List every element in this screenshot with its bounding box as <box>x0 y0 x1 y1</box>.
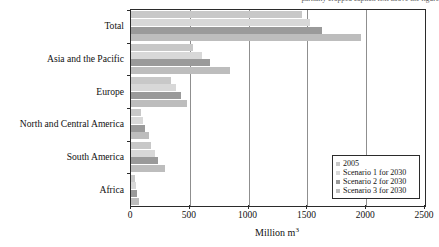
legend: 2005Scenario 1 for 2030Scenario 2 for 20… <box>332 155 420 199</box>
legend-label: Scenario 3 for 2030 <box>343 186 406 195</box>
x-axis-tick-label: 500 <box>182 210 196 221</box>
figure-container: partially cropped caption text above the… <box>0 0 439 247</box>
legend-item[interactable]: 2005 <box>336 159 415 168</box>
bar <box>131 19 310 26</box>
category-label: Africa <box>100 183 125 194</box>
bar <box>131 175 135 182</box>
bar <box>131 190 137 197</box>
x-axis-tick <box>424 205 425 209</box>
category-label: Europe <box>96 85 124 96</box>
x-axis-tick <box>189 205 190 209</box>
x-axis-tick <box>248 205 249 209</box>
x-axis-title: Million m3 <box>130 226 424 238</box>
bar <box>131 59 210 66</box>
x-axis-tick-labels: 05001000150020002500 <box>0 210 439 222</box>
bar <box>131 52 202 59</box>
bar <box>131 27 322 34</box>
legend-item[interactable]: Scenario 2 for 2030 <box>336 177 415 186</box>
bar <box>131 109 141 116</box>
legend-label: Scenario 1 for 2030 <box>343 168 406 177</box>
bar <box>131 92 181 99</box>
bar <box>131 142 151 149</box>
bar <box>131 77 171 84</box>
x-axis-title-text: Million m <box>255 227 295 238</box>
top-cropped-caption: partially cropped caption text above the… <box>120 0 439 4</box>
x-axis-tick <box>130 205 131 209</box>
bar <box>131 157 158 164</box>
bar <box>131 125 145 132</box>
bar <box>131 117 143 124</box>
x-axis-tick-label: 0 <box>128 210 133 221</box>
legend-label: Scenario 2 for 2030 <box>343 177 406 186</box>
bar <box>131 100 187 107</box>
bar <box>131 11 302 18</box>
x-axis-tick-label: 1000 <box>238 210 257 221</box>
category-label: North and Central America <box>20 118 124 129</box>
category-label: Asia and the Pacific <box>47 53 124 64</box>
legend-item[interactable]: Scenario 1 for 2030 <box>336 168 415 177</box>
bar <box>131 182 136 189</box>
x-axis-title-superscript: 3 <box>295 226 299 234</box>
legend-swatch-icon <box>336 171 340 175</box>
x-axis-tick-label: 2500 <box>415 210 434 221</box>
legend-item[interactable]: Scenario 3 for 2030 <box>336 186 415 195</box>
bar <box>131 132 149 139</box>
bar <box>131 67 230 74</box>
bar <box>131 84 176 91</box>
bar <box>131 150 155 157</box>
legend-swatch-icon <box>336 180 340 184</box>
legend-label: 2005 <box>343 159 359 168</box>
bar <box>131 198 139 205</box>
bar <box>131 44 193 51</box>
legend-swatch-icon <box>336 162 340 166</box>
bar <box>131 165 165 172</box>
legend-swatch-icon <box>336 189 340 193</box>
x-axis-tick <box>365 205 366 209</box>
x-axis-tick <box>306 205 307 209</box>
category-label: South America <box>67 151 124 162</box>
category-label: Total <box>104 20 124 31</box>
bar <box>131 34 361 41</box>
x-axis-tick-label: 2000 <box>356 210 375 221</box>
x-axis-tick-label: 1500 <box>297 210 316 221</box>
